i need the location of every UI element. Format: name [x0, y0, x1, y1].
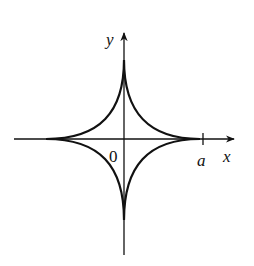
- tick-label-a: a: [197, 151, 206, 170]
- origin-label: 0: [109, 147, 118, 166]
- astroid-diagram: y x 0 a: [0, 0, 254, 266]
- astroid-curve: [46, 60, 200, 220]
- x-axis-label: x: [222, 147, 231, 166]
- y-axis-label: y: [104, 30, 114, 49]
